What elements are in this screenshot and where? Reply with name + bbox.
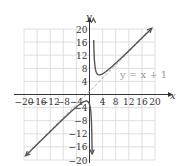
y-tick-label: 4 (82, 77, 88, 87)
curves (24, 18, 153, 156)
y-tick-label: −16 (69, 142, 88, 152)
y-tick-label: −12 (69, 129, 88, 139)
y-tick-label: 16 (76, 38, 88, 48)
y-axis-label: y (85, 11, 92, 22)
arrow-top-icon (91, 18, 95, 23)
x-tick-label: 8 (113, 97, 119, 107)
axes (14, 17, 173, 163)
x-axis-label: x (170, 90, 176, 101)
asymptote-label: y = x + 1 (119, 69, 167, 80)
x-tick-label: −8 (57, 97, 71, 107)
y-tick-label: −8 (74, 116, 88, 126)
y-tick-label: 20 (76, 25, 88, 35)
x-tick-label: 12 (123, 97, 134, 107)
chart-svg: −20−16−12−8−44812162020161284−4−8−12−16−… (0, 0, 187, 165)
x-tick-label: 20 (149, 97, 161, 107)
y-tick-label: 8 (82, 64, 88, 74)
x-tick-label: 4 (100, 97, 106, 107)
y-tick-label: −20 (69, 156, 88, 166)
y-tick-label: −4 (74, 103, 88, 113)
x-tick-label: 16 (136, 97, 148, 107)
y-tick-label: 12 (76, 51, 87, 61)
